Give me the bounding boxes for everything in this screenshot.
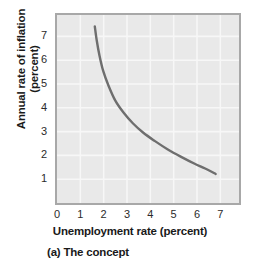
x-tick-label: 3 <box>120 209 134 220</box>
x-tick-label: 0 <box>50 209 64 220</box>
plot-area <box>55 13 241 205</box>
x-tick-label: 7 <box>213 209 227 220</box>
figure-caption: (a) The concept <box>47 246 129 258</box>
y-tick-label: 4 <box>33 102 47 113</box>
y-tick-label: 3 <box>33 126 47 137</box>
x-tick-label: 2 <box>97 209 111 220</box>
x-tick-label: 1 <box>73 209 87 220</box>
x-axis-title: Unemployment rate (percent) <box>0 225 260 237</box>
y-tick-label: 7 <box>33 30 47 41</box>
x-tick-label: 6 <box>190 209 204 220</box>
y-tick-label: 2 <box>33 149 47 160</box>
y-tick-label: 5 <box>33 78 47 89</box>
y-tick-label: 1 <box>33 173 47 184</box>
x-tick-label: 5 <box>167 209 181 220</box>
x-tick-label: 4 <box>143 209 157 220</box>
grid-lines <box>57 15 239 203</box>
y-tick-label: 6 <box>33 54 47 65</box>
phillips-curve-figure: Annual rate of inflation (percent) 12345… <box>0 0 260 276</box>
y-axis-title-line1: Annual rate of inflation <box>15 9 28 129</box>
plot-canvas <box>57 15 239 203</box>
